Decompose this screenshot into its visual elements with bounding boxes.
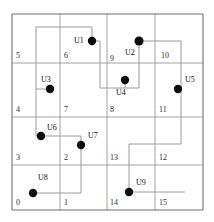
node-label-u2: U2 bbox=[125, 49, 135, 57]
node-label-u7: U7 bbox=[88, 132, 98, 140]
node-dot-u4[interactable] bbox=[121, 76, 129, 84]
cell-label-0: 0 bbox=[16, 199, 20, 207]
cell-label-4: 4 bbox=[16, 106, 20, 114]
path-u3-u6 bbox=[36, 89, 41, 136]
path-u1-u4 bbox=[92, 41, 125, 88]
path-u7-u8 bbox=[33, 145, 81, 193]
cell-label-12: 12 bbox=[159, 154, 167, 162]
cell-label-6: 6 bbox=[64, 52, 68, 60]
cell-label-14: 14 bbox=[110, 199, 118, 207]
node-label-u1: U1 bbox=[74, 37, 84, 45]
node-dot-u7[interactable] bbox=[77, 141, 85, 149]
node-dot-u1[interactable] bbox=[88, 37, 96, 45]
cell-label-5: 5 bbox=[16, 52, 20, 60]
node-label-u6: U6 bbox=[47, 124, 57, 132]
node-label-u5: U5 bbox=[185, 76, 195, 84]
node-dot-u5[interactable] bbox=[174, 85, 182, 93]
node-label-u4: U4 bbox=[116, 89, 126, 97]
cell-label-3: 3 bbox=[16, 154, 20, 162]
node-dot-u3[interactable] bbox=[46, 85, 54, 93]
cell-label-8: 8 bbox=[110, 106, 114, 114]
cell-label-2: 2 bbox=[64, 154, 68, 162]
cell-label-1: 1 bbox=[64, 199, 68, 207]
cell-label-10: 10 bbox=[161, 52, 169, 60]
node-dot-u8[interactable] bbox=[29, 189, 37, 197]
node-label-u8: U8 bbox=[38, 174, 48, 182]
node-dot-u6[interactable] bbox=[37, 132, 45, 140]
node-dot-u2[interactable] bbox=[135, 37, 144, 46]
path-u6-u7 bbox=[41, 136, 81, 145]
cell-label-7: 7 bbox=[64, 106, 68, 114]
node-label-u9: U9 bbox=[136, 179, 146, 187]
cell-label-9: 9 bbox=[110, 55, 114, 63]
node-dot-u9[interactable] bbox=[125, 188, 133, 196]
cell-label-11: 11 bbox=[159, 106, 167, 114]
node-label-u3: U3 bbox=[41, 76, 51, 84]
path-u2-u5 bbox=[139, 41, 181, 89]
cell-label-13: 13 bbox=[110, 154, 118, 162]
diagram-graphics bbox=[0, 0, 214, 222]
cell-label-15: 15 bbox=[159, 199, 167, 207]
diagram-canvas: 5691047811321312011415 U1U2U3U4U5U6U7U8U… bbox=[0, 0, 214, 222]
